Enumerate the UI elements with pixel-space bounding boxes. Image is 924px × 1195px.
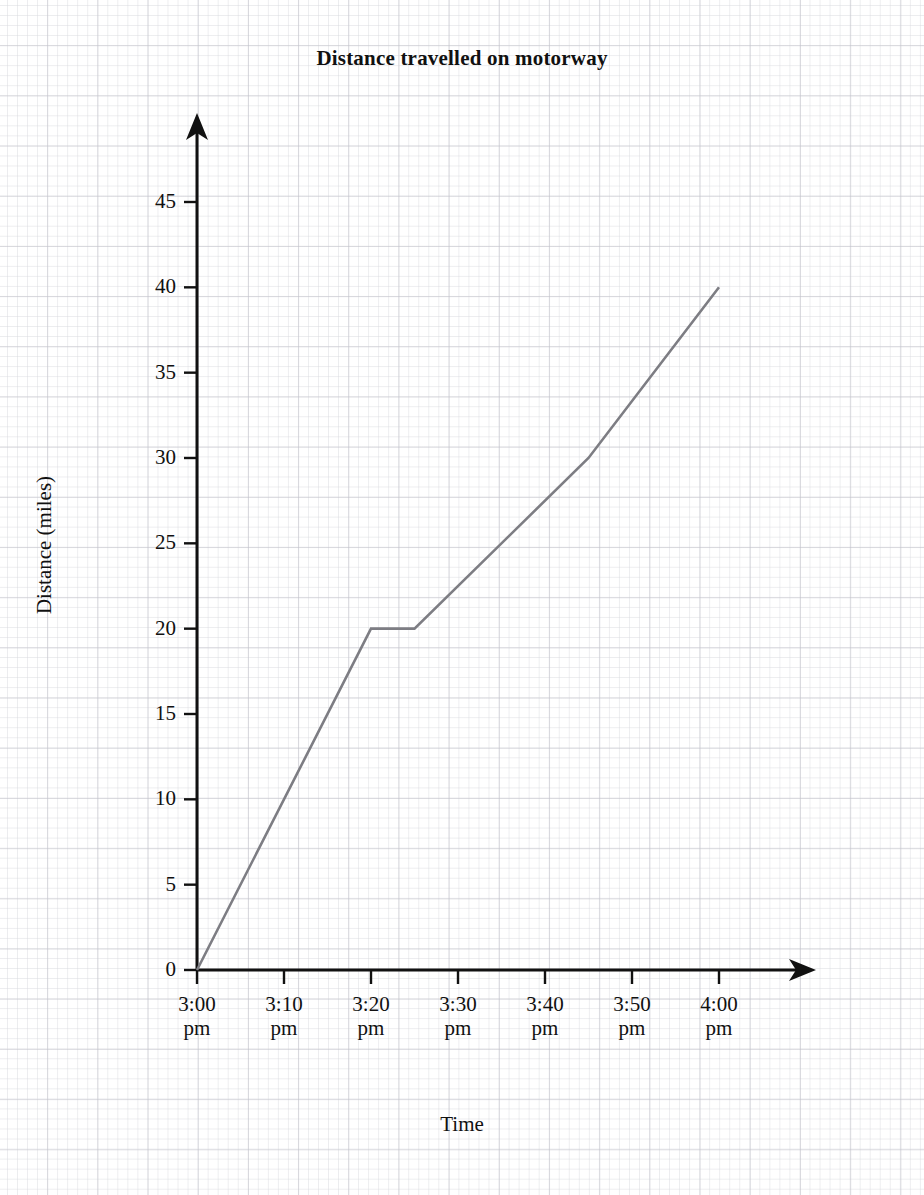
y-axis-tick-label: 45 — [124, 191, 176, 212]
x-axis-tick-time: 3:20 — [352, 992, 389, 1016]
x-axis-tick-time: 3:10 — [265, 992, 302, 1016]
x-axis-tick-time: 4:00 — [700, 992, 737, 1016]
x-axis-tick-meridiem: pm — [326, 1016, 416, 1040]
x-axis-tick-label: 3:20pm — [326, 992, 416, 1040]
x-axis-tick-label: 4:00pm — [674, 992, 764, 1040]
y-axis-tick-label: 15 — [124, 703, 176, 724]
y-axis-ticks — [184, 202, 197, 970]
y-axis-tick-label: 40 — [124, 276, 176, 297]
x-axis-tick-meridiem: pm — [500, 1016, 590, 1040]
y-axis-title: Distance (miles) — [32, 476, 57, 614]
x-axis-tick-meridiem: pm — [239, 1016, 329, 1040]
x-axis-tick-meridiem: pm — [674, 1016, 764, 1040]
distance-time-line — [197, 287, 719, 970]
x-axis-tick-label: 3:50pm — [587, 992, 677, 1040]
x-axis-tick-meridiem: pm — [413, 1016, 503, 1040]
x-axis-title: Time — [0, 1112, 924, 1137]
y-axis-tick-label: 20 — [124, 618, 176, 639]
x-axis-tick-label: 3:30pm — [413, 992, 503, 1040]
graph-paper-page: Distance travelled on motorway 051015202… — [0, 0, 924, 1195]
x-axis-tick-time: 3:00 — [178, 992, 215, 1016]
y-axis-tick-label: 0 — [124, 959, 176, 980]
x-axis-ticks — [197, 970, 719, 984]
x-axis-tick-label: 3:00pm — [152, 992, 242, 1040]
x-axis-tick-time: 3:50 — [613, 992, 650, 1016]
x-axis-tick-time: 3:40 — [526, 992, 563, 1016]
x-axis-tick-time: 3:30 — [439, 992, 476, 1016]
x-axis-tick-meridiem: pm — [152, 1016, 242, 1040]
y-axis-tick-label: 30 — [124, 447, 176, 468]
x-axis-tick-label: 3:10pm — [239, 992, 329, 1040]
x-axis-tick-label: 3:40pm — [500, 992, 590, 1040]
x-axis-tick-meridiem: pm — [587, 1016, 677, 1040]
y-axis-tick-label: 10 — [124, 788, 176, 809]
y-axis-tick-label: 5 — [124, 874, 176, 895]
y-axis-tick-label: 25 — [124, 532, 176, 553]
y-axis-tick-label: 35 — [124, 362, 176, 383]
